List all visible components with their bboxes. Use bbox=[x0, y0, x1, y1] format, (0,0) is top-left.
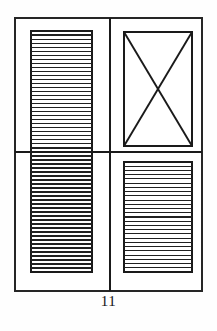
panel-top-right bbox=[124, 32, 192, 146]
technical-drawing-canvas bbox=[0, 0, 217, 331]
panel-bottom-left bbox=[31, 152, 92, 272]
figure-drawing bbox=[0, 0, 217, 331]
panel-bottom-right bbox=[124, 162, 192, 272]
figure-caption: 11 bbox=[0, 292, 217, 310]
panel-top-left bbox=[31, 31, 92, 152]
